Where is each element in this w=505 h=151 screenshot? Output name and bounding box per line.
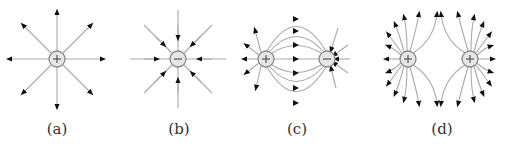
panel-a-label: (a) bbox=[37, 120, 77, 138]
panel-b-label: (b) bbox=[159, 120, 199, 138]
panel-a bbox=[9, 12, 103, 107]
panel-d bbox=[386, 14, 493, 104]
panel-c-label: (c) bbox=[277, 120, 317, 138]
panel-b bbox=[130, 10, 226, 108]
panel-d-label: (d) bbox=[422, 120, 462, 138]
panel-c bbox=[244, 16, 350, 106]
